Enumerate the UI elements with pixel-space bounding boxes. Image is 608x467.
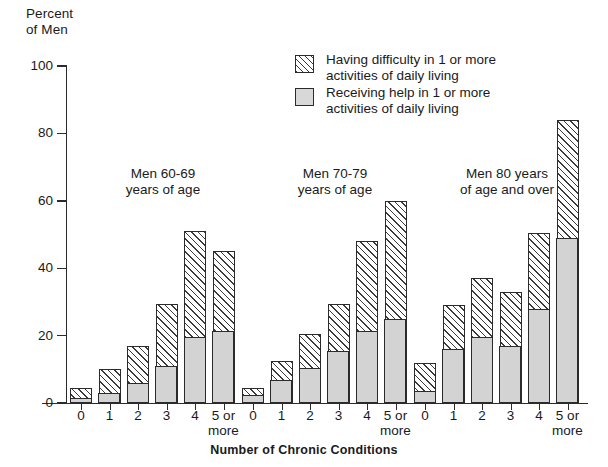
group-label: Men 60-69 years of age xyxy=(98,166,228,198)
bar-segment-receiving-help xyxy=(127,383,149,403)
bar-stack xyxy=(299,334,321,403)
bar-segment-receiving-help xyxy=(327,351,349,403)
y-axis-tick-mark xyxy=(57,402,67,403)
bar-segment-receiving-help xyxy=(442,349,464,403)
group-label: Men 80 years of age and over xyxy=(442,166,572,198)
bar-stack xyxy=(99,369,121,403)
y-axis-tick-mark xyxy=(57,335,67,336)
bar-segment-receiving-help xyxy=(499,346,521,403)
y-axis-tick-label: 40 xyxy=(12,259,53,277)
bar-segment-receiving-help xyxy=(528,309,550,403)
y-axis-tick-label: 80 xyxy=(12,124,53,142)
bar-stack xyxy=(356,241,378,403)
bar-segment-receiving-help xyxy=(212,331,234,403)
legend: Having difficulty in 1 or more activitie… xyxy=(295,52,565,118)
bar-segment-receiving-help xyxy=(414,391,436,403)
bar-stack xyxy=(414,363,436,403)
legend-item: Receiving help in 1 or more activities o… xyxy=(295,85,565,118)
y-axis-title: Percent of Men xyxy=(26,6,73,37)
bar-segment-receiving-help xyxy=(270,380,292,404)
bar-segment-receiving-help xyxy=(356,331,378,403)
bar-segment-receiving-help xyxy=(384,319,406,403)
bar-stack xyxy=(70,388,92,403)
bar-segment-receiving-help xyxy=(471,337,493,403)
group-label: Men 70-79 years of age xyxy=(270,166,400,198)
y-axis-tick-mark xyxy=(57,200,67,201)
bar-stack xyxy=(500,292,522,403)
y-axis-tick-label: 20 xyxy=(12,327,53,345)
bar-stack xyxy=(528,233,550,403)
bar-segment-receiving-help xyxy=(98,393,120,403)
bar-segment-receiving-help xyxy=(299,368,321,403)
bar-stack xyxy=(443,305,465,403)
hatched-square-icon xyxy=(295,55,314,73)
y-axis-tick-mark xyxy=(57,133,67,134)
bar-segment-receiving-help xyxy=(556,238,578,403)
bar-segment-receiving-help xyxy=(242,395,264,403)
x-axis-title: Number of Chronic Conditions xyxy=(0,443,608,457)
bar-stack xyxy=(471,278,493,403)
legend-item-label: Having difficulty in 1 or more activitie… xyxy=(326,52,496,83)
legend-item-label: Receiving help in 1 or more activities o… xyxy=(326,85,490,116)
bar-segment-receiving-help xyxy=(155,366,177,403)
bar-stack xyxy=(156,304,178,403)
bar-stack xyxy=(271,361,293,403)
bar-stack xyxy=(242,388,264,403)
bar-stack xyxy=(127,346,149,403)
y-axis-tick-label: 0 xyxy=(12,394,53,412)
y-axis-tick-mark xyxy=(57,65,67,66)
x-axis-tick-label: 5 or more xyxy=(544,408,592,438)
y-axis-tick-label: 100 xyxy=(12,57,53,75)
bar-stack xyxy=(328,304,350,403)
y-axis-tick-mark xyxy=(57,268,67,269)
gray-square-icon xyxy=(295,88,314,106)
x-axis-line xyxy=(42,403,588,404)
bar-segment-receiving-help xyxy=(70,398,92,403)
y-axis-line xyxy=(66,66,67,404)
bar-stack xyxy=(557,120,579,403)
bar-stack xyxy=(213,251,235,403)
bar-segment-receiving-help xyxy=(184,337,206,403)
bar-chart: Percent of Men 020406080100 012345 or mo… xyxy=(0,0,608,467)
y-axis-tick-label: 60 xyxy=(12,192,53,210)
bar-stack xyxy=(184,231,206,403)
legend-item: Having difficulty in 1 or more activitie… xyxy=(295,52,565,85)
bar-stack xyxy=(385,201,407,403)
